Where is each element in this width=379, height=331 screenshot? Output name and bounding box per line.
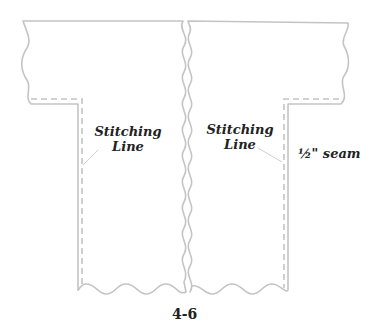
right-stitching-label-line2: Line: [200, 137, 280, 152]
seam-allowance-label: ½" seam: [298, 146, 378, 161]
figure-number: 4-6: [172, 306, 197, 322]
left-stitching-label: Stitching Line: [88, 124, 168, 154]
left-piece-outline: [22, 21, 186, 294]
right-stitching-line: [284, 99, 339, 288]
left-stitching-line: [31, 99, 82, 288]
left-stitching-label-line1: Stitching: [88, 124, 168, 139]
left-stitching-label-line2: Line: [88, 139, 168, 154]
right-stitching-label-line1: Stitching: [200, 122, 280, 137]
right-stitching-label: Stitching Line: [200, 122, 280, 152]
garment-pattern-diagram: [0, 0, 379, 331]
